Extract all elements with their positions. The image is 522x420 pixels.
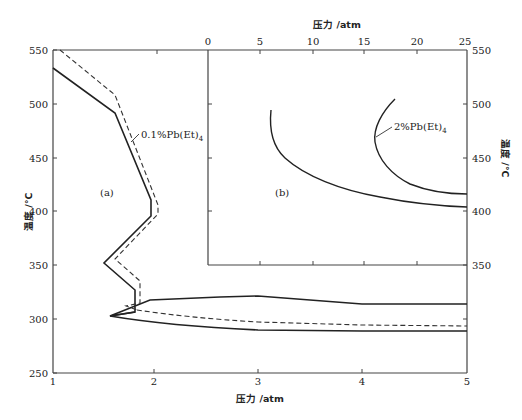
x-tick-1: 1 [50,376,56,387]
main-curve-solid-tail [110,312,467,331]
inset-y-tick-350: 350 [472,260,491,271]
inset-x-tick-labels: 0 5 10 15 20 25 [205,36,472,47]
y-tick-500: 500 [29,99,48,110]
inset-y-ticks [208,104,467,319]
x-tick-4: 4 [359,376,365,387]
main-x-tick-labels: 1 2 3 4 5 [50,376,470,387]
main-y-axis-title: 温度 /℃ [23,193,34,231]
y-tick-250: 250 [29,368,48,379]
annotation-leader-a [131,134,139,142]
inset-x-tick-0: 0 [205,36,211,47]
main-plot-frame [53,50,467,373]
main-curve-solid [53,68,467,316]
inset-x-tick-10: 10 [307,36,320,47]
x-tick-3: 3 [255,376,261,387]
inset-x-axis-title: 压力 /atm [313,19,361,30]
annotation-leader-b [376,127,392,137]
inset-y-tick-400: 400 [472,206,491,217]
inset-y-tick-labels: 350 400 450 500 550 [472,45,491,271]
main-curve-dashed-tail [137,310,467,326]
annotation-2pct-pbet4: 2%Pb(Et)4 [394,121,447,135]
annotation-0.1pct-pbet4: 0.1%Pb(Et)4 [141,129,204,143]
y-tick-550: 550 [29,45,48,56]
inset-y-tick-550: 550 [472,45,491,56]
inset-x-tick-25: 25 [459,36,472,47]
inset-x-tick-5: 5 [257,36,263,47]
chart-figure: 250 300 350 400 450 500 550 1 2 3 4 5 压力… [0,0,522,420]
y-tick-350: 350 [29,260,48,271]
panel-label-b: (b) [275,187,289,198]
y-tick-300: 300 [29,314,48,325]
inset-y-axis-title: 温度 /℃ [500,139,511,177]
inset-y-tick-450: 450 [472,153,491,164]
inset-curve-2pct [375,99,467,194]
x-tick-5: 5 [464,376,470,387]
x-tick-2: 2 [151,376,157,387]
panel-label-a: (a) [100,187,114,198]
y-tick-450: 450 [29,153,48,164]
main-x-axis-title: 压力 /atm [236,393,284,404]
inset-y-tick-500: 500 [472,99,491,110]
inset-x-tick-20: 20 [411,36,424,47]
main-y-ticks [53,50,157,373]
inset-x-tick-15: 15 [358,36,371,47]
